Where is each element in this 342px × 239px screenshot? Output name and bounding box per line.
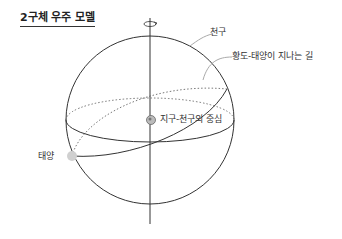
sun-icon	[67, 151, 77, 161]
label-ecliptic: 황도-태양이 지나는 길	[232, 52, 313, 61]
leader-ecliptic	[203, 57, 232, 80]
leader-celestial-sphere	[190, 34, 212, 46]
label-celestial-sphere: 천구	[210, 28, 226, 37]
label-sun: 태양	[38, 152, 54, 161]
label-earth-center: 지구-천구의 중심	[160, 115, 222, 124]
